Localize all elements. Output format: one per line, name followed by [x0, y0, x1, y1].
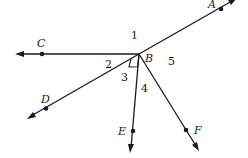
angle-label-4: 4: [141, 82, 148, 95]
label-F: F: [193, 124, 202, 137]
right-angle-mark: [129, 54, 139, 67]
ray-BE: [131, 54, 139, 148]
angle-label-5: 5: [168, 55, 175, 68]
label-A: A: [207, 0, 216, 11]
point-C: [40, 52, 45, 57]
label-C: C: [37, 37, 46, 50]
point-F: [184, 128, 189, 133]
label-B: B: [144, 52, 153, 65]
label-D: D: [40, 93, 50, 106]
angle-diagram: A B C D E F 1 2 3 4 5: [0, 0, 248, 158]
angle-label-3: 3: [121, 71, 128, 84]
arrowhead-F-icon: [192, 142, 199, 151]
angle-label-2: 2: [105, 58, 112, 71]
label-E: E: [117, 125, 126, 138]
point-D: [44, 106, 49, 111]
arrowhead-D-icon: [27, 112, 36, 119]
point-E: [131, 129, 136, 134]
arrowhead-C-icon: [15, 51, 24, 57]
ray-BA: [139, 1, 232, 54]
point-A: [219, 7, 224, 12]
arrowhead-E-icon: [128, 144, 134, 153]
angle-label-1: 1: [131, 29, 138, 42]
